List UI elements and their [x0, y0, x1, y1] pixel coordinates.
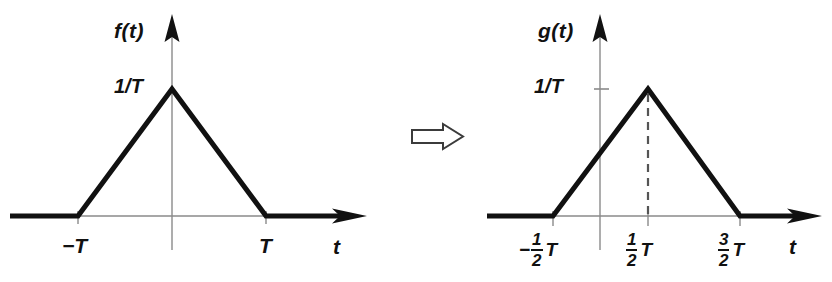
left-x-axis-label: t — [333, 236, 340, 257]
left-waveform-f — [10, 89, 345, 216]
fraction-denominator: 2 — [626, 252, 637, 269]
fraction-numerator: 3 — [718, 231, 729, 248]
right-waveform-g — [487, 89, 800, 216]
left-xtick-label-posT: T — [259, 235, 272, 256]
right-plot-group — [487, 14, 822, 250]
right-y-axis-label: g(t) — [538, 20, 574, 41]
right-xtick-label-half-T: 1 2 T — [625, 231, 652, 270]
figure-canvas — [0, 0, 832, 282]
implies-arrow-group — [412, 124, 463, 149]
left-amplitude-label: 1/T — [114, 76, 143, 96]
fraction-stack: 1 2 — [531, 231, 542, 270]
right-x-axis-label: t — [789, 236, 796, 257]
right-xtick-label-three-half-T: 3 2 T — [717, 231, 744, 270]
fraction-numerator: 1 — [531, 231, 542, 248]
implies-arrow-icon — [412, 124, 463, 149]
left-plot-group — [10, 14, 367, 250]
fraction-stack: 1 2 — [626, 231, 637, 270]
left-xtick-label-negT: −T — [62, 235, 87, 256]
fraction-denominator: 2 — [531, 252, 542, 269]
fraction-sign: − — [519, 240, 530, 260]
fraction-suffix: T — [732, 240, 744, 260]
fraction-numerator: 1 — [626, 231, 637, 248]
fraction-stack: 3 2 — [718, 231, 729, 270]
fraction-suffix: T — [640, 240, 652, 260]
right-xtick-label-neg-half-T: − 1 2 T — [519, 231, 557, 270]
fraction-suffix: T — [546, 240, 558, 260]
fraction-denominator: 2 — [718, 252, 729, 269]
left-y-axis-label: f(t) — [114, 20, 144, 41]
figure-root: f(t) 1/T −T T t g(t) 1/T − 1 2 T 1 2 T 3… — [0, 0, 832, 282]
right-amplitude-label: 1/T — [534, 76, 563, 96]
